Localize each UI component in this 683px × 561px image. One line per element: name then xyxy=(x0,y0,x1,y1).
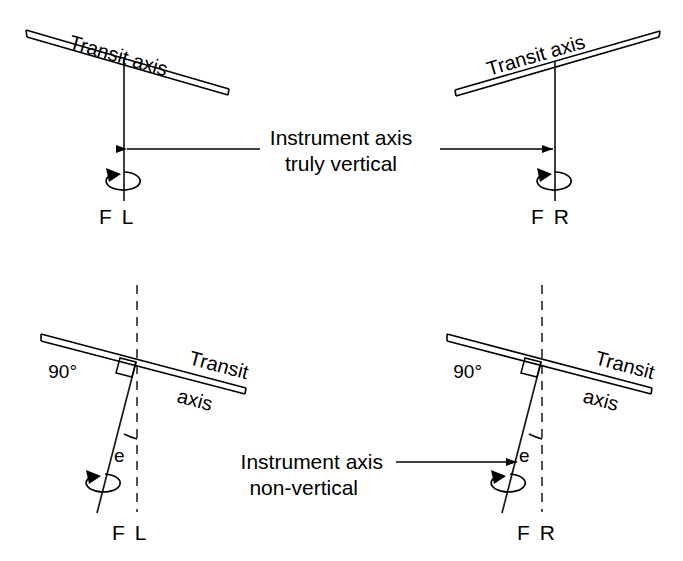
rotation-arrow-icon-top-right xyxy=(537,168,571,190)
station-label-top-left: F L xyxy=(99,205,135,228)
diagram-root: Transit axis F L Transit axis F R xyxy=(0,0,683,561)
callout-bottom-line1: Instrument axis xyxy=(241,450,383,473)
rotation-arrow-icon-top-left xyxy=(106,168,140,190)
right-angle-label-bottom-left: 90° xyxy=(48,361,77,382)
transit-axis-label-line1-bottom-left: Transit xyxy=(187,347,251,384)
callout-bottom: Instrument axis non-vertical xyxy=(241,450,517,499)
panel-bottom-right: 90° e Transit axis F R xyxy=(447,285,657,544)
transit-axis-label-line1-bottom-right: Transit xyxy=(593,347,657,384)
right-angle-marker-bottom-left xyxy=(116,358,136,377)
panel-top-right: Transit axis F R xyxy=(455,30,660,228)
error-angle-label-bottom-left: e xyxy=(114,445,125,466)
transit-axis-label-line2-bottom-left: axis xyxy=(175,385,215,415)
error-angle-label-bottom-right: e xyxy=(519,445,530,466)
callout-top: Instrument axis truly vertical xyxy=(127,126,553,175)
station-label-bottom-left: F L xyxy=(112,521,148,544)
panel-bottom-left: 90° e Transit axis F L xyxy=(41,285,251,544)
callout-bottom-line2: non-vertical xyxy=(249,476,358,499)
station-label-top-right: F R xyxy=(531,205,571,228)
error-angle-arc-bottom-left xyxy=(124,434,137,439)
callout-top-line1: Instrument axis xyxy=(270,126,412,149)
right-angle-label-bottom-right: 90° xyxy=(453,361,482,382)
callout-top-line2: truly vertical xyxy=(285,152,397,175)
panel-top-left: Transit axis F L xyxy=(26,30,229,228)
transit-axis-label-line2-bottom-right: axis xyxy=(581,385,621,415)
transit-axis-label-top-left: Transit axis xyxy=(67,31,171,80)
station-label-bottom-right: F R xyxy=(517,521,557,544)
instrument-axis-diagram: Transit axis F L Transit axis F R xyxy=(0,0,683,561)
right-angle-marker-bottom-right xyxy=(521,358,541,377)
error-angle-arc-bottom-right xyxy=(529,434,542,439)
